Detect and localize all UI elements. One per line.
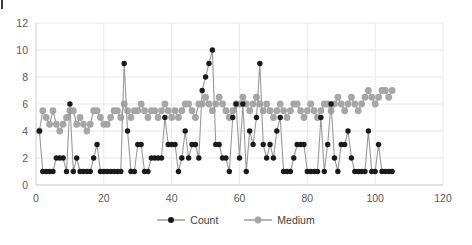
data-point xyxy=(342,142,347,147)
data-point xyxy=(246,107,253,114)
chart-container: 024681012020406080100120 Count Medium xyxy=(0,0,472,245)
y-axis-tick-label: 8 xyxy=(22,71,28,83)
data-point xyxy=(287,107,294,114)
data-point xyxy=(70,107,77,114)
data-point xyxy=(263,101,270,108)
data-point xyxy=(260,107,267,114)
legend-label-medium: Medium xyxy=(277,215,314,226)
data-point xyxy=(159,155,164,160)
data-point xyxy=(280,107,287,114)
x-axis-tick-label: 80 xyxy=(301,192,313,204)
data-point xyxy=(121,61,126,66)
data-point xyxy=(37,128,42,133)
data-point xyxy=(253,94,260,101)
data-point xyxy=(233,101,238,106)
data-point xyxy=(117,114,124,121)
data-point xyxy=(60,155,65,160)
data-point xyxy=(315,169,320,174)
data-point xyxy=(189,107,196,114)
y-axis-tick-label: 2 xyxy=(22,152,28,164)
data-point xyxy=(60,121,67,128)
series-medium xyxy=(36,87,396,134)
data-point xyxy=(210,47,215,52)
data-point xyxy=(87,121,94,128)
data-point xyxy=(257,61,262,66)
data-point xyxy=(179,155,184,160)
data-point xyxy=(341,107,348,114)
y-axis-tick-label: 10 xyxy=(16,44,28,56)
data-point xyxy=(274,128,279,133)
data-point xyxy=(271,155,276,160)
data-point xyxy=(158,107,165,114)
data-point xyxy=(74,155,79,160)
y-axis-tick-label: 6 xyxy=(22,98,28,110)
data-point xyxy=(240,101,245,106)
data-point xyxy=(80,121,87,128)
data-point xyxy=(172,142,177,147)
data-point xyxy=(223,107,230,114)
data-point xyxy=(77,114,84,121)
x-axis-tick-label: 120 xyxy=(434,192,452,204)
data-point xyxy=(366,128,371,133)
data-point xyxy=(53,121,60,128)
data-point xyxy=(318,107,325,114)
data-point xyxy=(132,169,137,174)
data-point xyxy=(365,87,372,94)
legend-item-count[interactable]: Count xyxy=(157,215,218,226)
data-point xyxy=(193,142,198,147)
data-point xyxy=(348,94,355,101)
plot-area: 024681012020406080100120 xyxy=(0,0,472,245)
data-point xyxy=(39,107,46,114)
y-axis-tick-label: 0 xyxy=(22,179,28,191)
data-point xyxy=(382,87,389,94)
x-axis-tick-label: 40 xyxy=(166,192,178,204)
data-point xyxy=(328,101,333,106)
data-point xyxy=(261,142,266,147)
data-point xyxy=(199,101,206,108)
data-point xyxy=(288,169,293,174)
data-point xyxy=(178,107,185,114)
data-point xyxy=(338,101,345,108)
data-point xyxy=(155,114,162,121)
data-point xyxy=(203,74,208,79)
data-point xyxy=(250,101,257,108)
data-point xyxy=(64,169,69,174)
data-point xyxy=(186,155,191,160)
data-point xyxy=(50,169,55,174)
data-point xyxy=(94,107,101,114)
data-point xyxy=(185,101,192,108)
data-point xyxy=(270,114,277,121)
legend-item-medium[interactable]: Medium xyxy=(244,215,314,226)
data-point xyxy=(368,94,375,101)
data-point xyxy=(284,114,291,121)
data-point xyxy=(114,107,121,114)
data-point xyxy=(145,169,150,174)
data-point xyxy=(349,155,354,160)
data-point xyxy=(176,169,181,174)
data-point xyxy=(107,114,114,121)
data-point xyxy=(151,107,158,114)
data-point xyxy=(335,169,340,174)
data-point xyxy=(385,94,392,101)
data-point xyxy=(138,142,143,147)
data-point xyxy=(46,121,53,128)
x-axis-tick-label: 60 xyxy=(234,192,246,204)
data-point xyxy=(254,115,259,120)
legend-label-count: Count xyxy=(190,215,218,226)
data-point xyxy=(372,101,379,108)
data-point xyxy=(322,169,327,174)
data-point xyxy=(219,101,226,108)
data-point xyxy=(161,101,168,108)
data-point xyxy=(230,115,235,120)
data-point xyxy=(175,114,182,121)
y-axis-tick-label: 12 xyxy=(16,17,28,29)
data-point xyxy=(250,142,255,147)
data-point xyxy=(138,101,145,108)
data-point xyxy=(247,128,252,133)
data-point xyxy=(91,155,96,160)
data-point xyxy=(294,101,301,108)
data-point xyxy=(206,101,213,108)
data-point xyxy=(362,94,369,101)
data-point xyxy=(56,128,63,135)
data-point xyxy=(202,94,209,101)
